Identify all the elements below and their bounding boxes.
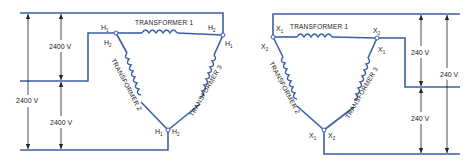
primary-node-top-left bbox=[114, 31, 118, 35]
primary-line-middle bbox=[20, 33, 116, 81]
secondary-upper-voltage-dimension: 240 V bbox=[411, 15, 430, 86]
secondary-line-bottom bbox=[324, 130, 460, 154]
secondary-node-top-right bbox=[375, 36, 379, 40]
secondary-transformer-1-label: TRANSFORMER 1 bbox=[290, 23, 348, 30]
primary-terminal-t3-bottom: H2 bbox=[172, 128, 180, 137]
secondary-full-voltage-label: 240 V bbox=[440, 71, 459, 78]
secondary-node-bottom bbox=[322, 128, 326, 132]
primary-lower-voltage-dimension: 2400 V bbox=[50, 82, 73, 149]
secondary-transformer-3-label: TRANSFORMER 3 bbox=[344, 65, 379, 119]
primary-transformer-2-label: TRANSFORMER 2 bbox=[110, 57, 144, 112]
secondary-lower-voltage-dimension: 240 V bbox=[411, 88, 430, 153]
primary-line-bottom bbox=[20, 130, 168, 150]
secondary-delta-diagram: TRANSFORMER 1 TRANSFORMER 2 TRANSFORMER … bbox=[261, 14, 460, 154]
primary-terminal-t1-right: H2 bbox=[208, 24, 216, 33]
primary-node-bottom bbox=[166, 128, 170, 132]
primary-node-top-right bbox=[221, 33, 225, 37]
secondary-upper-voltage-label: 240 V bbox=[411, 49, 430, 56]
secondary-terminal-t1-left: X1 bbox=[276, 25, 284, 34]
primary-transformer-3-coil bbox=[168, 35, 223, 130]
primary-transformer-1-coil bbox=[116, 30, 223, 35]
secondary-full-voltage-dimension: 240 V bbox=[440, 15, 459, 153]
primary-terminal-t1-left: H1 bbox=[101, 24, 109, 33]
primary-transformer-1-label: TRANSFORMER 1 bbox=[135, 19, 193, 26]
delta-delta-transformer-diagram: TRANSFORMER 1 TRANSFORMER 2 TRANSFORMER … bbox=[0, 0, 474, 163]
primary-terminal-t2-top: H2 bbox=[104, 39, 112, 48]
secondary-lower-voltage-label: 240 V bbox=[411, 115, 430, 122]
secondary-terminal-t2-top: X2 bbox=[261, 43, 269, 52]
secondary-terminal-t2-bottom: X1 bbox=[309, 132, 317, 141]
secondary-transformer-1-coil bbox=[273, 34, 377, 38]
primary-upper-voltage-dimension: 2400 V bbox=[49, 14, 72, 80]
primary-delta-diagram: TRANSFORMER 1 TRANSFORMER 2 TRANSFORMER … bbox=[16, 13, 233, 150]
secondary-terminal-t3-top: X1 bbox=[378, 46, 386, 55]
primary-transformer-3-label: TRANSFORMER 3 bbox=[188, 63, 223, 117]
primary-full-voltage-label: 2400 V bbox=[16, 97, 39, 104]
secondary-node-top-left bbox=[271, 35, 275, 39]
secondary-terminal-t1-right: X2 bbox=[373, 27, 381, 36]
primary-upper-voltage-label: 2400 V bbox=[49, 43, 72, 50]
primary-terminal-t3-top: H1 bbox=[225, 40, 233, 49]
secondary-line-middle bbox=[377, 38, 460, 87]
secondary-terminal-t3-bottom: X2 bbox=[328, 132, 336, 141]
primary-lower-voltage-label: 2400 V bbox=[50, 119, 73, 126]
primary-terminal-t2-bottom: H1 bbox=[155, 128, 163, 137]
